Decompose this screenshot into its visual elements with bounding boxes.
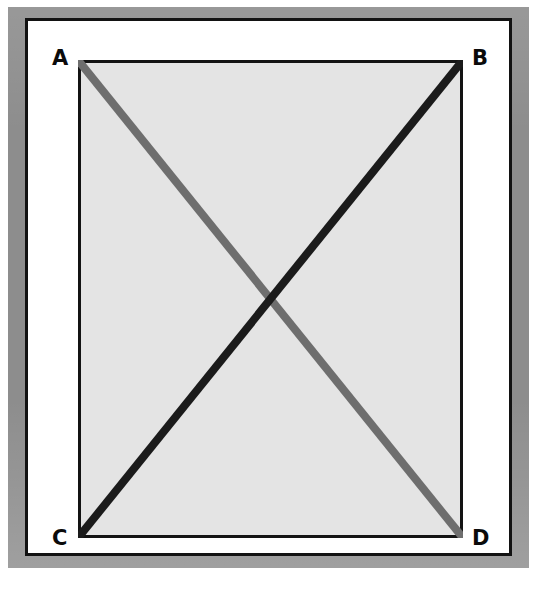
rectangle-stage [78,60,463,538]
vertex-label-a: A [52,48,68,69]
vertex-label-d: D [472,528,489,549]
vertex-label-c: C [52,528,67,549]
figure-root: A B C D [0,0,537,612]
vertex-label-b: B [472,48,488,69]
diagonals-svg [78,60,463,538]
